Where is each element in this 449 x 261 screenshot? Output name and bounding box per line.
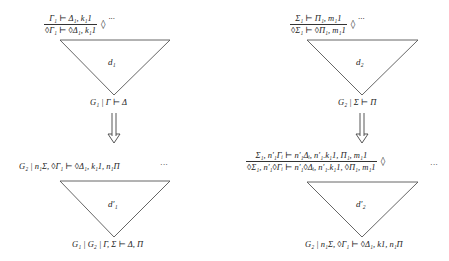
derivation-triangle-d2-prime [307,182,418,237]
ellipsis: ··· [160,161,168,169]
derivation-label-d2-prime: d′₂ [356,200,366,209]
derivation-label-d1-prime: d′₁ [108,200,118,209]
premise-fraction-top-left: Γ₁ ⊢ Δ₁, k₁1 ◊Γ₁ ⊢ ◊Δ₁, k₁1 ◊ ··· [44,14,115,35]
sequent-bottom-left: G₂ | n₁Σ, ◊Γ₁ ⊢ ◊Δ₁, k₁1, n₁Π [19,162,120,171]
premise-numerator: Σ₁, n′₁Γᵢ ⊢ n′₁Δᵢ, n′₁.k₁1, Π₁, m₁1 [254,151,368,160]
conclusion-bottom-right: G₂ | n₁Σ, ◊Γ₁ ⊢ ◊Δ₁, k1, n₁Π [305,240,403,249]
diamond-rule-icon: ◊ [351,19,355,29]
double-arrow-down-icon [356,113,368,143]
ellipsis: ··· [108,15,115,23]
premise-numerator: Γ₁ ⊢ Δ₁, k₁1 [48,14,92,23]
diamond-rule-icon: ◊ [101,19,105,29]
premise-fraction-bottom-right: Σ₁, n′₁Γᵢ ⊢ n′₁Δᵢ, n′₁.k₁1, Π₁, m₁1 ◊Σ₁,… [246,151,385,172]
derivation-triangle-d2 [307,40,418,95]
conclusion-top-left: G₁ | Γ ⊢ Δ [90,98,127,107]
ellipsis: ··· [430,161,438,169]
diagram-canvas [0,0,449,261]
derivation-triangle-d1 [60,40,170,95]
diamond-rule-icon: ◊ [381,156,385,166]
double-arrow-down-icon [108,113,120,143]
derivation-label-d2: d₂ [356,58,364,67]
derivation-triangle-d1-prime [60,181,170,237]
derivation-label-d1: d₁ [108,58,116,67]
premise-numerator: Σ₁ ⊢ Π₁, m₁1 [294,14,342,23]
premise-denominator: ◊Σ₁, n′₁◊Γᵢ ⊢ n′₁◊Δᵢ, n′₁.k₁1, ◊Π₁, m₁1 [246,163,377,172]
premise-denominator: ◊Σ₁ ⊢ ◊Π₁, m₁1 [290,26,347,35]
ellipsis: ··· [358,15,365,23]
premise-denominator: ◊Γ₁ ⊢ ◊Δ₁, k₁1 [44,26,97,35]
conclusion-bottom-left: G₁ | G₂ | Γ, Σ ⊢ Δ, Π [72,240,143,249]
premise-fraction-top-right: Σ₁ ⊢ Π₁, m₁1 ◊Σ₁ ⊢ ◊Π₁, m₁1 ◊ ··· [290,14,365,35]
conclusion-top-right: G₂ | Σ ⊢ Π [338,98,376,107]
